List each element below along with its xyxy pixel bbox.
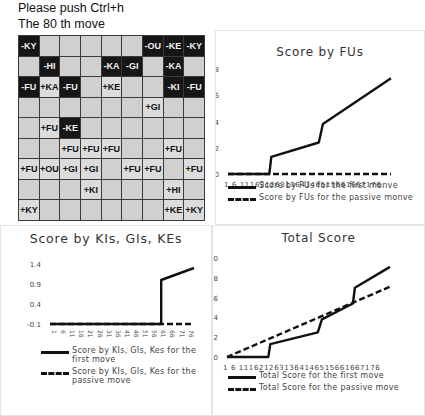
board-square	[60, 200, 80, 220]
board-piece: -KY	[184, 36, 204, 56]
legend-item-first: Score by FUs for the first monve	[228, 181, 413, 190]
x-tick-label: 21	[87, 330, 94, 338]
board-piece: +FU	[19, 159, 39, 179]
board-square	[81, 36, 101, 56]
chart-plot-area: 02468101 6 1116212631364146515661667176	[213, 246, 425, 381]
solid-line-icon	[228, 186, 256, 189]
board-square	[122, 36, 142, 56]
board-square	[102, 118, 122, 138]
chart-legend: Total Score for the first move Total Sco…	[228, 371, 399, 395]
dashed-line-icon	[41, 372, 69, 375]
board-square	[122, 139, 142, 159]
board-piece: +KA	[40, 77, 60, 97]
x-tick-label: 71	[179, 330, 186, 338]
board-square	[60, 36, 80, 56]
board-square	[81, 77, 101, 97]
y-tick-label: 6	[216, 92, 220, 100]
y-tick-label: 0	[216, 171, 219, 179]
board-piece: +FU	[40, 118, 60, 138]
board-square	[164, 159, 184, 179]
x-tick-label: 31	[106, 330, 113, 338]
x-tick-label: 6	[60, 330, 67, 334]
board-piece: +OU	[40, 159, 60, 179]
board-square	[19, 98, 39, 118]
board-square	[143, 139, 163, 159]
board-piece: -KA	[102, 57, 122, 77]
board-square	[102, 98, 122, 118]
y-tick-label: 10	[213, 255, 218, 263]
board-square	[102, 36, 122, 56]
dashed-line-icon	[228, 388, 256, 391]
x-tick-label: 11	[69, 330, 76, 338]
board-square	[184, 57, 204, 77]
board-square	[19, 139, 39, 159]
series-line	[50, 268, 194, 324]
board-piece: +FU	[184, 159, 204, 179]
y-tick-label: 4	[214, 314, 219, 322]
board-square	[143, 180, 163, 200]
chart-score-by-fus: Score by FUs 024681 6 111621263136414651…	[215, 30, 425, 225]
dashed-line-icon	[228, 198, 256, 201]
board-square	[102, 180, 122, 200]
board-square	[60, 98, 80, 118]
legend-item-passive: Score by FUs for the passive monve	[228, 193, 413, 202]
board-square	[40, 200, 60, 220]
x-tick-label: 76	[188, 330, 195, 338]
board-square	[19, 57, 39, 77]
board-square	[164, 118, 184, 138]
board-square	[122, 77, 142, 97]
board-square	[143, 57, 163, 77]
legend-item-first: Score by KIs, GIs, Kes for the first mov…	[41, 346, 201, 364]
board-square	[184, 98, 204, 118]
board-piece: +FU	[143, 159, 163, 179]
board-square	[143, 77, 163, 97]
board-square	[81, 118, 101, 138]
chart-legend: Score by KIs, GIs, Kes for the first mov…	[41, 346, 201, 388]
board-square	[40, 36, 60, 56]
board-piece: -FU	[19, 77, 39, 97]
y-tick-label: 0.4	[30, 301, 42, 309]
y-tick-label: -0.1	[27, 321, 41, 329]
series-line	[227, 287, 390, 357]
board-square	[40, 139, 60, 159]
y-tick-label: 8	[214, 275, 218, 283]
x-tick-label: 61	[160, 330, 167, 338]
chart-legend: Score by FUs for the first monve Score b…	[228, 181, 413, 205]
x-tick-label: 36	[115, 330, 122, 338]
x-tick-label: 51	[142, 330, 149, 338]
board-piece: +FU	[164, 139, 184, 159]
shogi-board: -KY-OU-KE-KY-HI-KA-GI-KA-FU+KA-FU+KE-KI-…	[18, 35, 205, 221]
board-piece: +KE	[164, 200, 184, 220]
x-tick-label: 1	[51, 330, 58, 334]
board-piece: +FU	[60, 139, 80, 159]
board-square	[184, 180, 204, 200]
y-tick-label: 2	[216, 145, 219, 153]
legend-item-first: Total Score for the first move	[228, 371, 399, 380]
board-piece: +FU	[122, 159, 142, 179]
board-square	[143, 200, 163, 220]
x-tick-label: 46	[133, 330, 140, 338]
board-piece: +GI	[143, 98, 163, 118]
solid-line-icon	[41, 351, 69, 354]
board-piece: +FU	[102, 139, 122, 159]
chart-title: Score by FUs	[216, 45, 424, 59]
x-tick-label: 16	[78, 330, 85, 338]
series-line	[227, 267, 390, 357]
board-piece: -FU	[184, 77, 204, 97]
instruction-text: Please push Ctrl+h	[18, 1, 124, 15]
board-square	[122, 118, 142, 138]
board-square	[19, 118, 39, 138]
board-square	[40, 180, 60, 200]
x-tick-label: 41	[124, 330, 131, 338]
legend-item-passive: Total Score for the passive move	[228, 383, 399, 392]
y-tick-label: 2	[214, 334, 218, 342]
board-square	[81, 57, 101, 77]
board-square	[122, 180, 142, 200]
chart-title: Total Score	[213, 231, 424, 245]
board-piece: -KA	[164, 57, 184, 77]
chart-total-score: Total Score 02468101 6 11162126313641465…	[212, 225, 425, 416]
board-square	[102, 159, 122, 179]
board-square	[184, 139, 204, 159]
board-square	[102, 200, 122, 220]
board-piece: -KE	[60, 118, 80, 138]
